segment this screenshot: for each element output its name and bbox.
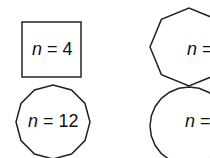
polygon-diagram [0,0,210,158]
many-gon-label: n = [185,112,210,130]
square-label: n = 4 [32,40,73,58]
octagon-label: n = [187,40,210,58]
dodecagon-label: n = 12 [28,112,79,130]
